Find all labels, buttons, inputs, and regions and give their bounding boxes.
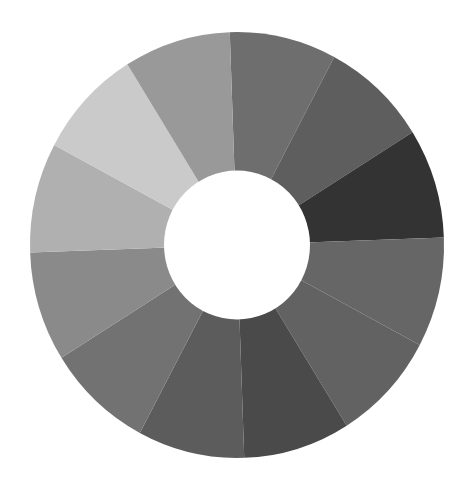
center-hole bbox=[164, 171, 310, 320]
segmented-gray-wheel bbox=[0, 0, 472, 496]
grayscale-wheel-canvas bbox=[0, 0, 472, 496]
